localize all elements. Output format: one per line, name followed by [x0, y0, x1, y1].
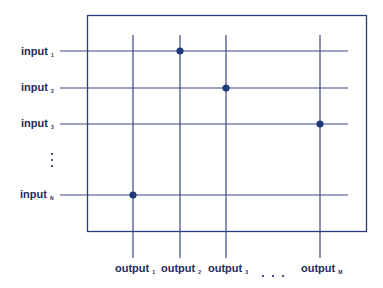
output-label-1: output1 [115, 262, 155, 275]
connection-dot-in1-out2 [176, 47, 183, 54]
output-labels: output1 output2 output3 outputM [115, 262, 342, 275]
connection-dot-in3-outm [316, 120, 323, 127]
connection-dot-in2-out3 [222, 84, 229, 91]
crossbar-diagram: input1 input2 input3 inputN output1 outp… [0, 0, 383, 288]
connection-dot-inn-out1 [129, 191, 136, 198]
input-lines [60, 51, 348, 195]
output-lines [133, 35, 320, 258]
input-label-3: input3 [21, 117, 54, 130]
output-ellipsis-icon [262, 275, 284, 277]
output-label-2: output2 [161, 262, 201, 275]
output-label-m: outputM [301, 262, 342, 275]
input-label-2: input2 [21, 81, 54, 94]
output-label-3: output3 [208, 262, 248, 275]
input-labels: input1 input2 input3 inputN [20, 45, 54, 201]
input-label-1: input1 [21, 45, 54, 58]
input-label-n: inputN [20, 188, 54, 201]
input-ellipsis-icon [51, 153, 53, 167]
